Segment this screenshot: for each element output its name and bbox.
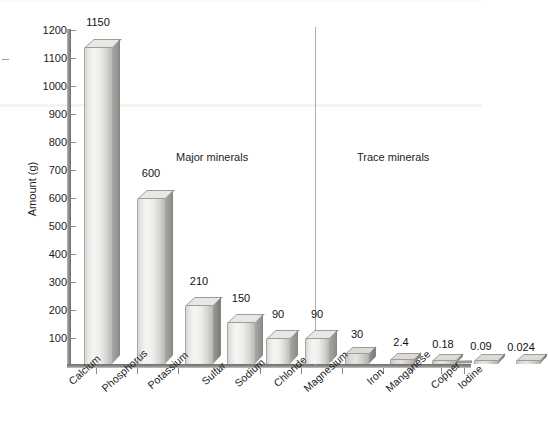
- bar-side-face: [165, 190, 173, 364]
- y-tick-mark-300: [71, 282, 76, 283]
- bar-side-face: [213, 297, 221, 364]
- bar-front-face: [227, 323, 255, 364]
- y-tick-label-1100: 1100: [29, 53, 67, 64]
- y-tick-label-100: 100: [29, 333, 67, 344]
- bar-calcium: [84, 48, 112, 364]
- bar-value-copper: 0.09: [463, 340, 499, 352]
- y-tick-mark-1100: [71, 58, 76, 59]
- y-axis-line: [67, 29, 71, 367]
- y-tick-label-400: 400: [29, 249, 67, 260]
- bar-sodium: [266, 339, 290, 364]
- y-tick-label-200: 200: [29, 305, 67, 316]
- y-tick-label-800: 800: [29, 137, 67, 148]
- bar-value-potassium: 210: [185, 275, 213, 287]
- x-tick-mark-calcium: [96, 368, 97, 374]
- bar-value-sulfur: 150: [227, 292, 255, 304]
- y-tick-mark-1200: [71, 30, 76, 31]
- bar-front-face: [84, 48, 112, 364]
- y-tick-label-500: 500: [29, 221, 67, 232]
- y-tick-mark-900: [71, 114, 76, 115]
- y-tick-mark-800: [71, 142, 76, 143]
- bar-value-calcium: 1150: [84, 16, 112, 28]
- bar-chloride: [305, 339, 329, 364]
- x-tick-mark-potassium: [178, 368, 179, 374]
- y-tick-mark-1000: [71, 86, 76, 87]
- y-tick-label-700: 700: [29, 165, 67, 176]
- bar-side-face: [112, 39, 120, 364]
- x-tick-mark-phosphorus: [137, 368, 138, 374]
- y-tick-label-300: 300: [29, 277, 67, 288]
- y-tick-label-600: 600: [29, 193, 67, 204]
- bar-iodine: [516, 361, 540, 364]
- y-tick-mark-700: [71, 170, 76, 171]
- bar-value-phosphorus: 600: [137, 167, 165, 179]
- section-label-trace-minerals: Trace minerals: [357, 151, 429, 163]
- y-axis-tick-labels: 1200 1100 1000 900 800 700 600 500 400 3…: [20, 0, 67, 368]
- bar-front-face: [266, 339, 290, 364]
- y-tick-mark-400: [71, 254, 76, 255]
- y-tick-label-900: 900: [29, 109, 67, 120]
- bar-phosphorus: [137, 199, 165, 364]
- bar-front-face: [516, 361, 540, 364]
- bar-front-face: [305, 339, 329, 364]
- y-tick-mark-100: [71, 338, 76, 339]
- bar-value-iodine: 0.024: [501, 341, 541, 353]
- bar-sulfur: [227, 323, 255, 364]
- bar-front-face: [185, 306, 213, 364]
- y-tick-mark-200: [71, 310, 76, 311]
- bar-value-sodium: 90: [264, 308, 292, 320]
- scan-artifact-band: [0, 104, 482, 107]
- page-edge-mark: [2, 59, 9, 60]
- bar-potassium: [185, 306, 213, 364]
- bar-value-magnesium: 30: [343, 328, 371, 340]
- bar-value-chloride: 90: [303, 308, 331, 320]
- bar-value-manganese: 0.18: [425, 338, 461, 350]
- y-tick-mark-600: [71, 198, 76, 199]
- y-tick-label-1000: 1000: [29, 81, 67, 92]
- bar-front-face: [137, 199, 165, 364]
- bar-value-iron: 2.4: [386, 336, 416, 348]
- section-label-major-minerals: Major minerals: [176, 151, 248, 163]
- y-tick-label-1200: 1200: [29, 25, 67, 36]
- x-tick-mark-magnesium: [342, 368, 343, 374]
- scan-artifact-top: [0, 0, 482, 2]
- y-tick-mark-500: [71, 226, 76, 227]
